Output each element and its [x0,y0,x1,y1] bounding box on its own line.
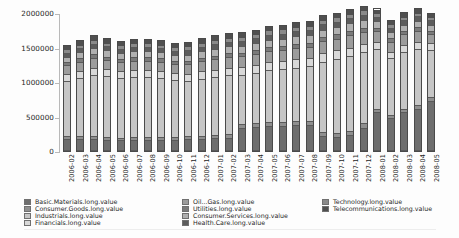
bar-segment [307,59,313,67]
bar-segment [172,81,178,138]
bar-segment [320,31,326,39]
bar-segment [212,71,218,78]
bar-segment [320,63,326,133]
bar-segment [347,57,353,132]
bar-stack[interactable] [198,38,206,152]
bar-stack[interactable] [387,20,395,152]
bar-segment [266,127,272,151]
bar-stack[interactable] [171,43,179,152]
bar-stack[interactable] [400,12,408,152]
bar-segment [307,36,313,43]
bar-segment [226,58,232,69]
bar-segment [239,47,245,54]
legend-swatch-icon [24,206,31,212]
bar-segment [239,57,245,68]
legend-item[interactable]: Financials.long.value [24,220,182,226]
bar-segment [104,70,110,77]
x-axis-tick-label: 2006-05 [110,154,117,182]
legend-column: Oil...Gas.long.valueUtilities.long.value… [182,199,322,227]
bar-stack[interactable] [279,25,287,152]
bar-stack[interactable] [292,22,300,152]
legend-column: Basic.Materials.long.valueConsumer.Goods… [24,199,182,227]
bar-segment [145,71,151,78]
x-axis-tick-label: 2008-02 [393,154,400,182]
y-axis-tick-mark [55,152,59,153]
y-axis-tick-mark [55,83,59,84]
bar-stack[interactable] [225,33,233,152]
bar-stack[interactable] [360,6,368,152]
bar-segment [131,141,137,151]
bar-segment [388,119,394,151]
bar-stack[interactable] [306,21,314,152]
legend-label: Technology.long.value [333,199,402,205]
bar-stack[interactable] [373,8,381,152]
legend-item[interactable]: Telecommunications.long.value [322,206,436,212]
bar-stack[interactable] [319,15,327,152]
bar-segment [253,55,259,66]
bar-segment [239,129,245,151]
bar-segment [158,79,164,139]
x-axis-tick-label: 2007-08 [312,154,319,182]
bar-segment [199,80,205,137]
bar-segment [253,66,259,74]
y-axis-tick-mark [55,49,59,50]
x-axis-tick-label: 2007-12 [366,154,373,182]
legend-item[interactable]: Industrials.long.value [24,213,182,219]
x-axis-tick-label: 2007-02 [231,154,238,182]
bar-stack[interactable] [117,41,125,152]
legend-item[interactable]: Oil...Gas.long.value [182,199,322,205]
bar-segment [415,22,421,29]
chart-container: 0500000100000015000002000000 2006-022006… [0,0,459,238]
bar-stack[interactable] [130,39,138,152]
bar-stack[interactable] [184,42,192,152]
bar-segment [415,110,421,152]
legend-item[interactable]: Basic.Materials.long.value [24,199,182,205]
bar-segment [347,24,353,32]
bar-segment [307,48,313,60]
bar-stack[interactable] [346,9,354,152]
chart-legend: Basic.Materials.long.valueConsumer.Goods… [24,199,436,227]
x-axis-tick-label: 2007-05 [272,154,279,182]
legend-item[interactable]: Consumer.Services.long.value [182,213,322,219]
bar-stack[interactable] [252,30,260,152]
legend-item[interactable]: Consumer.Goods.long.value [24,206,182,212]
bar-segment [77,79,83,138]
bar-stack[interactable] [144,39,152,152]
bar-stack[interactable] [63,45,71,152]
legend-swatch-icon [182,199,189,205]
bar-segment [104,141,110,151]
legend-swatch-icon [322,206,329,212]
bar-stack[interactable] [414,8,422,152]
legend-item[interactable]: Technology.long.value [322,199,436,205]
bar-segment [428,35,434,45]
bar-segment [64,140,70,152]
legend-swatch-icon [182,220,189,226]
bar-stack[interactable] [76,40,84,152]
legend-item[interactable]: Health.Care.long.value [182,220,322,226]
bar-stack[interactable] [265,26,273,152]
bar-segment [118,141,124,151]
bar-stack[interactable] [103,38,111,152]
legend-label: Basic.Materials.long.value [35,199,117,205]
bar-segment [77,63,83,72]
bar-segment [226,76,232,135]
bar-segment [320,42,326,54]
bar-segment [253,74,259,124]
bar-stack[interactable] [333,13,341,152]
bar-stack[interactable] [238,32,246,152]
bar-stack[interactable] [157,40,165,152]
bar-segment [374,43,380,50]
legend-item[interactable]: Utilities.long.value [182,206,322,212]
bar-stack[interactable] [90,35,98,152]
x-axis-tick-label: 2006-02 [69,154,76,182]
bar-segment [91,69,97,76]
x-axis-tick-label: 2006-08 [150,154,157,182]
bar-segment [172,74,178,81]
bar-segment [91,59,97,69]
bar-segment [104,77,110,138]
legend-label: Consumer.Services.long.value [193,213,288,219]
bar-segment [172,141,178,151]
bar-stack[interactable] [427,13,435,152]
bar-segment [280,51,286,62]
bar-stack[interactable] [211,35,219,152]
